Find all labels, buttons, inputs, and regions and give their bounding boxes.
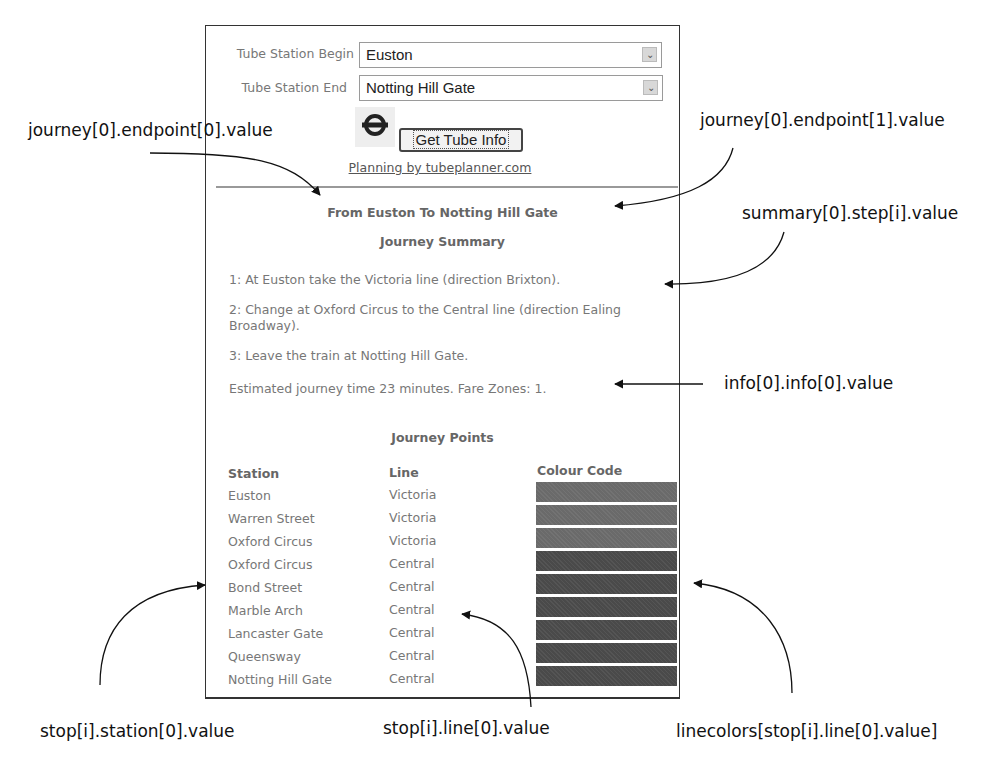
column-header-station: Station [228, 466, 279, 481]
line-colour-swatch [536, 551, 677, 571]
chevron-down-icon[interactable]: ⌄ [642, 47, 657, 62]
stop-station: Oxford Circus [228, 534, 313, 549]
annotation-summary-step: summary[0].step[i].value [742, 203, 958, 223]
london-underground-roundel-icon [355, 107, 395, 147]
stop-line: Victoria [389, 487, 436, 502]
stop-station: Notting Hill Gate [228, 672, 332, 687]
summary-step: 3: Leave the train at Notting Hill Gate. [229, 348, 649, 364]
stop-line: Central [389, 625, 435, 640]
line-colour-swatch [536, 574, 677, 594]
annotation-info: info[0].info[0].value [724, 373, 893, 393]
stop-line: Victoria [389, 533, 436, 548]
journey-summary-heading: Journey Summary [205, 234, 680, 249]
stop-line: Central [389, 602, 435, 617]
annotation-endpoint-0: journey[0].endpoint[0].value [28, 120, 273, 140]
line-colour-swatch [536, 666, 677, 686]
line-colour-swatch [536, 482, 677, 502]
line-colour-swatch [536, 643, 677, 663]
annotation-endpoint-1: journey[0].endpoint[1].value [700, 110, 945, 130]
column-header-line: Line [389, 465, 419, 480]
stop-station: Marble Arch [228, 603, 303, 618]
end-station-value: Notting Hill Gate [366, 79, 475, 96]
begin-station-label: Tube Station Begin [212, 46, 354, 61]
stop-line: Central [389, 556, 435, 571]
summary-step: 1: At Euston take the Victoria line (dir… [229, 272, 649, 288]
end-station-select[interactable]: Notting Hill Gate ⌄ [359, 75, 663, 101]
journey-title: From Euston To Notting Hill Gate [205, 205, 680, 220]
annotation-linecolors: linecolors[stop[i].line[0].value] [676, 721, 937, 741]
stop-station: Euston [228, 488, 271, 503]
stop-station: Warren Street [228, 511, 315, 526]
tubeplanner-credit-link[interactable]: Planning by tubeplanner.com [205, 160, 675, 175]
journey-info: Estimated journey time 23 minutes. Fare … [229, 381, 649, 397]
stop-station: Lancaster Gate [228, 626, 323, 641]
annotation-station: stop[i].station[0].value [40, 721, 235, 741]
end-station-label: Tube Station End [212, 80, 347, 95]
stop-line: Central [389, 648, 435, 663]
stop-line: Victoria [389, 510, 436, 525]
stop-station: Bond Street [228, 580, 302, 595]
column-header-colour-code: Colour Code [537, 463, 622, 478]
annotation-line: stop[i].line[0].value [383, 718, 550, 738]
get-tube-info-button[interactable]: Get Tube Info [399, 128, 523, 152]
line-colour-swatch [536, 528, 677, 548]
journey-points-heading: Journey Points [205, 430, 680, 445]
divider [216, 186, 678, 188]
stop-line: Central [389, 579, 435, 594]
stop-station: Oxford Circus [228, 557, 313, 572]
line-colour-swatch [536, 505, 677, 525]
chevron-down-icon[interactable]: ⌄ [643, 80, 658, 95]
begin-station-select[interactable]: Euston ⌄ [359, 42, 662, 68]
stop-line: Central [389, 671, 435, 686]
summary-step: 2: Change at Oxford Circus to the Centra… [229, 302, 649, 334]
get-tube-info-label: Get Tube Info [413, 130, 510, 149]
line-colour-swatch [536, 597, 677, 617]
line-colour-swatch [536, 620, 677, 640]
stop-station: Queensway [228, 649, 301, 664]
begin-station-value: Euston [366, 46, 413, 63]
